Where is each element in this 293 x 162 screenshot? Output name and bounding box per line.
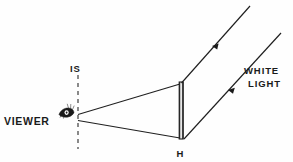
diagram-canvas: VIEWER IS H WHITE LIGHT [0,0,293,162]
optics-diagram-figure: VIEWER IS H WHITE LIGHT [0,0,293,162]
white-light-label-line2: LIGHT [248,78,281,89]
white-light-label-line1: WHITE [244,65,279,76]
image-plane-label: IS [70,63,81,74]
hologram-label: H [177,148,184,159]
hologram-plate [179,82,183,139]
viewer-label: VIEWER [4,115,50,127]
